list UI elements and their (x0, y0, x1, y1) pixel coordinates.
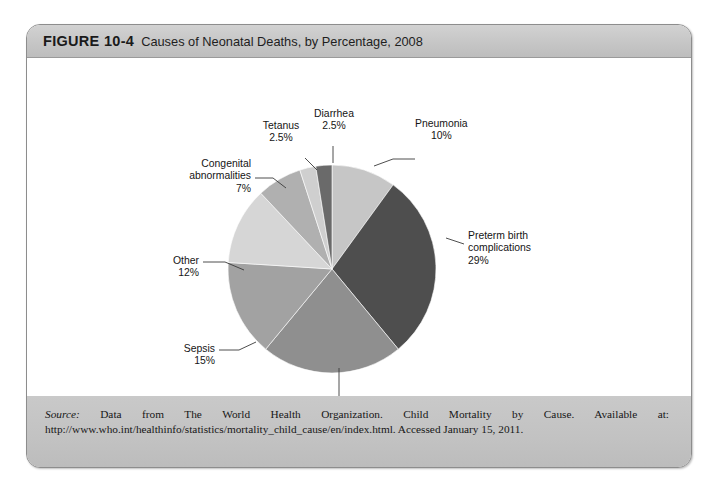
other-value: 12% (127, 267, 199, 279)
sepsis-value: 15% (139, 355, 215, 367)
source-body: Data from The World Health Organization.… (45, 408, 669, 435)
diarrhea-value: 2.5% (301, 120, 367, 132)
preterm-value: 29% (468, 255, 531, 267)
figure-number: FIGURE 10-4 (43, 33, 134, 49)
slice-label-preterm-birth-complications: Preterm birth complications 29% (468, 230, 531, 267)
preterm-name-line1: Preterm birth (468, 230, 531, 242)
leader-line-preterm (446, 238, 464, 244)
slice-label-sepsis: Sepsis 15% (139, 343, 215, 368)
slice-label-diarrhea: Diarrhea 2.5% (301, 108, 367, 133)
slice-label-pneumonia: Pneumonia 10% (415, 118, 468, 143)
figure-caption: Causes of Neonatal Deaths, by Percentage… (141, 34, 423, 49)
source-label: Source: (45, 408, 80, 420)
pie-chart-area: Pneumonia 10% Preterm birth complication… (27, 58, 691, 430)
pneumonia-name: Pneumonia (415, 118, 468, 130)
leader-line-pneumonia (374, 159, 415, 166)
congenital-name-line1: Congenital (135, 158, 251, 170)
slice-label-congenital-abnormalities: Congenital abnormalities 7% (135, 158, 251, 195)
figure-header: FIGURE 10-4 Causes of Neonatal Deaths, b… (27, 25, 691, 58)
figure-card: FIGURE 10-4 Causes of Neonatal Deaths, b… (26, 24, 692, 468)
source-text: Source: Data from The World Health Organ… (45, 407, 669, 436)
preterm-name-line2: complications (468, 242, 531, 254)
pie-slice-group (228, 165, 436, 373)
other-name: Other (127, 255, 199, 267)
sepsis-name: Sepsis (139, 343, 215, 355)
tetanus-value: 2.5% (249, 132, 313, 144)
congenital-value: 7% (135, 183, 251, 195)
diarrhea-name: Diarrhea (301, 108, 367, 120)
slice-label-other: Other 12% (127, 255, 199, 280)
congenital-name-line2: abnormalities (135, 170, 251, 182)
leader-line-sepsis (219, 342, 256, 350)
pneumonia-value: 10% (415, 130, 468, 142)
figure-source-footer: Source: Data from The World Health Organ… (27, 396, 691, 467)
